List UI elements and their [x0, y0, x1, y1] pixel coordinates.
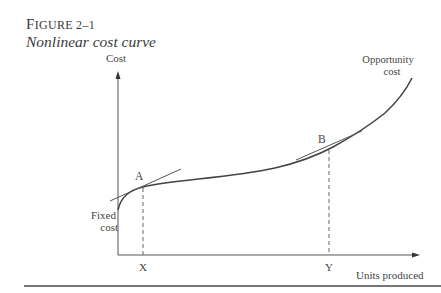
point-b-label: B — [318, 133, 326, 145]
tangent-a — [110, 169, 181, 201]
x-mark-label: X — [139, 261, 147, 273]
point-a-label: A — [135, 170, 143, 182]
tangent-b — [296, 131, 362, 160]
y-axis-arrow-icon — [116, 71, 121, 79]
y-axis-label: Cost — [106, 52, 126, 64]
fixed-cost-label: Fixed cost — [88, 209, 118, 233]
fixed-cost-line1: Fixed — [86, 209, 116, 221]
x-axis-arrow-icon — [412, 253, 420, 258]
x-axis-label: Units produced — [356, 269, 424, 281]
cost-curve — [118, 78, 412, 210]
fixed-cost-line2: cost — [88, 221, 118, 233]
cost-curve-diagram — [0, 0, 441, 293]
opportunity-cost-line2: cost — [349, 66, 435, 78]
opportunity-cost-label: Opportunity cost — [345, 54, 431, 78]
y-mark-label: Y — [325, 261, 333, 273]
opportunity-cost-line1: Opportunity — [345, 54, 431, 66]
